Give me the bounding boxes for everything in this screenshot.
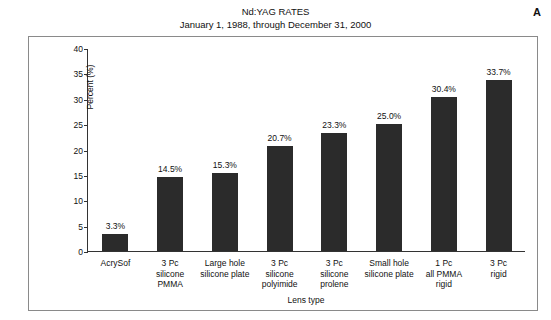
bar [157, 177, 183, 251]
bar-value-label: 25.0% [377, 111, 401, 121]
plot-area: Percent (%) 05101520253035403.3%AcrySof1… [87, 49, 525, 252]
y-axis-tick-mark [84, 151, 88, 152]
y-axis-tick-mark [84, 125, 88, 126]
bar [267, 146, 293, 251]
chart-subtitle: January 1, 1988, through December 31, 20… [0, 18, 551, 31]
bar-value-label: 14.5% [158, 164, 182, 174]
x-axis-label: Lens type [87, 295, 525, 305]
bar [102, 234, 128, 251]
y-axis-tick-mark [84, 176, 88, 177]
y-axis-tick-mark [84, 227, 88, 228]
bar-value-label: 15.3% [213, 160, 237, 170]
chart-title: Nd:YAG RATES [0, 5, 551, 18]
bar-value-label: 3.3% [106, 221, 125, 231]
bar-value-label: 33.7% [487, 67, 511, 77]
bar-value-label: 23.3% [322, 120, 346, 130]
bar [376, 124, 402, 251]
chart-title-block: Nd:YAG RATES January 1, 1988, through De… [0, 5, 551, 31]
bar-value-label: 20.7% [268, 133, 292, 143]
y-axis-tick-mark [84, 100, 88, 101]
y-axis-tick-mark [84, 49, 88, 50]
bar-value-label: 30.4% [432, 84, 456, 94]
bar [321, 133, 347, 251]
y-axis-tick-mark [84, 74, 88, 75]
y-axis-tick-mark [84, 252, 88, 253]
bar [431, 97, 457, 251]
chart-figure: A Nd:YAG RATES January 1, 1988, through … [0, 0, 551, 320]
chart-frame: Percent (%) 05101520253035403.3%AcrySof1… [28, 36, 538, 311]
bar [486, 80, 512, 251]
bar [212, 173, 238, 251]
y-axis-tick-mark [84, 201, 88, 202]
x-axis-category-label: 3 Pcrigid [464, 258, 534, 279]
